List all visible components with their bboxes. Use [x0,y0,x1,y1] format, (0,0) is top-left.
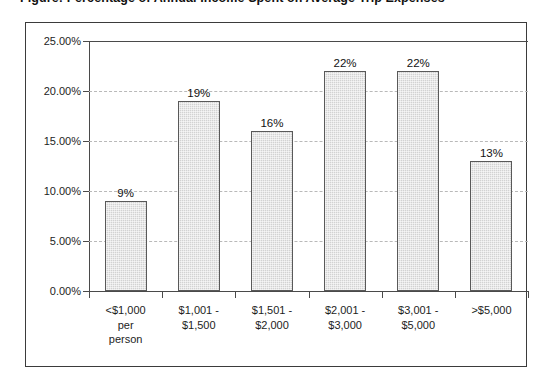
bar-value-3: 22% [334,57,357,69]
x-axis-tick-2 [235,291,236,298]
x-axis-label-5: >$5,000 [455,303,528,318]
bar-3[interactable] [324,71,366,291]
y-axis-label-1: 5.00% [29,235,81,247]
bar-value-2: 16% [260,117,283,129]
bar-4[interactable] [397,71,439,291]
bar-0[interactable] [105,201,147,291]
x-axis-label-1: $1,001 - $1,500 [162,303,235,332]
bar-slot-4: 22% [382,41,455,291]
plot-area: 9% 19% 16% 22% 22% 13% [89,41,528,291]
bar-slot-1: 19% [162,41,235,291]
chart-title: Figure: Percentage of Annual Income Spen… [0,0,554,9]
bar-slot-2: 16% [235,41,308,291]
y-axis-label-2: 10.00% [29,185,81,197]
bar-value-4: 22% [407,57,430,69]
x-axis-label-3: $2,001 - $3,000 [309,303,382,332]
bar-value-1: 19% [187,87,210,99]
bar-value-5: 13% [480,147,503,159]
bar-2[interactable] [251,131,293,291]
x-axis-label-0: <$1,000 per person [89,303,162,347]
x-axis-tick-3 [309,291,310,298]
x-axis-tick-0 [89,291,90,298]
x-axis-tick-1 [162,291,163,298]
y-axis-label-4: 20.00% [29,85,81,97]
bar-slot-3: 22% [309,41,382,291]
bar-slot-5: 13% [455,41,528,291]
bar-1[interactable] [178,101,220,291]
bar-value-0: 9% [117,187,134,199]
bar-slot-0: 9% [89,41,162,291]
x-axis-label-4: $3,001 - $5,000 [382,303,455,332]
y-axis-labels: 0.00% 5.00% 10.00% 15.00% 20.00% 25.00% [26,41,81,292]
x-axis-tick-4 [382,291,383,298]
chart-frame: 0.00% 5.00% 10.00% 15.00% 20.00% 25.00% … [25,22,527,367]
y-axis-label-0: 0.00% [29,285,81,297]
y-axis-label-5: 25.00% [29,35,81,47]
bar-5[interactable] [470,161,512,291]
y-axis-label-3: 15.00% [29,135,81,147]
x-axis-label-2: $1,501 - $2,000 [235,303,308,332]
x-axis-tick-5 [455,291,456,298]
x-axis-tick-6 [528,291,529,298]
